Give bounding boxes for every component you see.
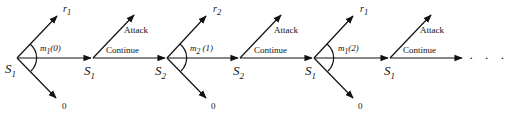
attack-label: Attack	[274, 26, 298, 35]
attack-label: Attack	[420, 26, 444, 35]
zero-payoff-label: 0	[358, 102, 363, 111]
node-label-s1: S1	[305, 64, 316, 81]
zero-payoff-label: 0	[62, 102, 67, 111]
ellipsis: · · ·	[469, 51, 508, 64]
message-label: m1(2)	[338, 44, 359, 55]
reward-label: r1	[63, 4, 71, 17]
decision-branches	[17, 16, 353, 98]
continue-label: Continue	[403, 46, 436, 55]
zero-payoff-label: 0	[211, 102, 216, 111]
node-label-s1: S1	[84, 64, 95, 81]
message-label: m2 (1)	[190, 44, 213, 55]
message-label: m1(0)	[40, 44, 61, 55]
reward-label: r2	[213, 4, 221, 17]
node-label-s1: S1	[5, 62, 16, 79]
attack-label: Attack	[124, 26, 148, 35]
continue-label: Continue	[254, 46, 287, 55]
reward-label: r1	[360, 4, 368, 17]
node-label-s1: S1	[384, 64, 395, 81]
node-label-s2: S2	[233, 64, 244, 81]
node-label-s2: S2	[155, 64, 166, 81]
continue-label: Continue	[106, 46, 139, 55]
